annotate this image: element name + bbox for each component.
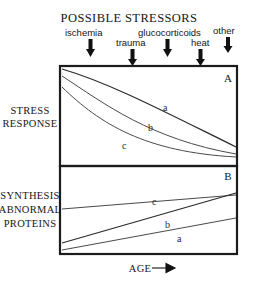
age-right-arrow-icon — [152, 264, 175, 273]
panel-a-frame — [60, 66, 237, 166]
panel-b-curve-b — [62, 193, 236, 243]
stressor-arrow-ischemia-icon — [86, 39, 95, 57]
stressor-label-heat: heat — [191, 37, 210, 48]
panel-b-curve-c — [62, 195, 236, 209]
panel-b-frame — [60, 166, 237, 254]
panel-a-curve-b — [62, 76, 236, 154]
panel-b-ylabel-line3: PROTEINS — [4, 218, 57, 229]
panel-b-label-c: c — [152, 196, 157, 207]
panel-a-ylabel-line2: RESPONSE — [3, 118, 58, 129]
stressor-label-trauma: trauma — [116, 37, 146, 48]
stressor-label-ischemia: ischemia — [65, 27, 103, 38]
panel-b-ylabel-line2: ABNORMAL — [0, 204, 61, 215]
stressor-arrow-other-icon — [224, 37, 233, 53]
figure-title: POSSIBLE STRESSORS — [61, 11, 198, 25]
panel-a-label-a: a — [163, 102, 168, 113]
panel-b-badge: B — [224, 170, 231, 182]
panel-b-label-b: b — [165, 219, 170, 230]
stressors-figure: POSSIBLE STRESSORS ischemia trauma gluco… — [0, 0, 259, 285]
stressor-label-other: other — [213, 25, 235, 36]
figure-root: POSSIBLE STRESSORS ischemia trauma gluco… — [0, 0, 259, 285]
panel-b-ylabel-line1: SYNTHESIS — [0, 190, 59, 201]
panel-a-ylabel-line1: STRESS — [10, 105, 49, 116]
panel-a-label-b: b — [148, 122, 153, 133]
stressor-arrow-trauma-icon — [128, 49, 137, 66]
panel-a-label-c: c — [122, 140, 127, 151]
panel-b-label-a: a — [177, 233, 182, 244]
panel-a-badge: A — [224, 72, 232, 84]
x-axis-label: AGE — [129, 263, 151, 274]
stressor-arrow-glucocorticoids-icon — [163, 39, 172, 57]
panel-a-curve-a — [62, 69, 236, 147]
stressor-arrow-heat-icon — [196, 49, 205, 66]
panel-b-curve-a — [62, 218, 236, 250]
